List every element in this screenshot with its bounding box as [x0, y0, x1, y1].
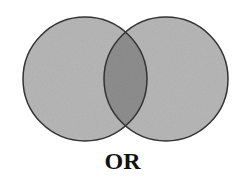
operator-label: OR: [0, 148, 245, 175]
